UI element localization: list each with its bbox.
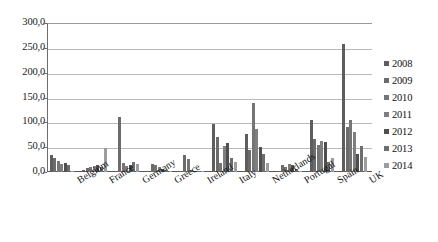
bar-group — [115, 23, 144, 172]
bar — [310, 120, 313, 172]
bar — [57, 161, 60, 172]
x-axis-category-label: Belgium — [75, 176, 81, 185]
x-axis-category-label: France — [107, 176, 113, 185]
bar — [346, 127, 349, 172]
legend-item[interactable]: 2013 — [384, 140, 438, 157]
legend-item[interactable]: 2009 — [384, 72, 438, 89]
y-axis-tick-label: 50,0 — [1, 140, 45, 151]
bar — [67, 165, 70, 172]
bar — [245, 134, 248, 172]
y-axis-tick-label: 200,0 — [1, 66, 45, 77]
bar-group — [245, 23, 274, 172]
bar — [262, 154, 265, 172]
legend-label: 2012 — [392, 126, 412, 137]
legend: 2008200920102011201220132014 — [384, 55, 438, 174]
x-axis-category-label: Ireland — [205, 176, 211, 185]
legend-swatch — [384, 163, 389, 168]
legend-swatch — [384, 129, 389, 134]
x-axis-category-label: Portugal — [302, 176, 308, 185]
legend-swatch — [384, 112, 389, 117]
bar-group — [277, 23, 306, 172]
x-axis-category-label: Netherlands — [270, 176, 276, 185]
legend-label: 2013 — [392, 143, 412, 154]
bar-group — [50, 23, 79, 172]
bar — [360, 146, 363, 172]
x-axis-category-label: UK — [367, 176, 373, 185]
x-axis-category-label: Spain — [335, 176, 341, 185]
bar-group — [82, 23, 111, 172]
bar-group — [342, 23, 371, 172]
y-axis-tick-label: 150,0 — [1, 91, 45, 102]
bar — [259, 147, 262, 172]
bar — [60, 164, 63, 172]
bar — [364, 157, 367, 172]
x-axis-category-label: Italy — [237, 176, 243, 185]
legend-label: 2011 — [392, 109, 412, 120]
y-axis-tick-label: 100,0 — [1, 115, 45, 126]
bar-group — [212, 23, 241, 172]
legend-swatch — [384, 78, 389, 83]
bar — [266, 163, 269, 172]
y-axis-tick-label: 0,0 — [1, 165, 45, 176]
legend-label: 2010 — [392, 92, 412, 103]
x-axis-category-label: Greece — [172, 176, 178, 185]
legend-label: 2014 — [392, 160, 412, 171]
bar — [255, 129, 258, 172]
legend-swatch — [384, 95, 389, 100]
legend-item[interactable]: 2012 — [384, 123, 438, 140]
legend-item[interactable]: 2011 — [384, 106, 438, 123]
bar — [252, 103, 255, 172]
x-axis-category-labels: BelgiumFranceGermanyGreeceIrelandItalyNe… — [47, 172, 372, 242]
legend-swatch — [384, 146, 389, 151]
bar — [53, 158, 56, 172]
legend-swatch — [384, 61, 389, 66]
y-axis: 300,0250,0200,0150,0100,050,00,0 — [0, 0, 45, 242]
bar — [50, 155, 53, 172]
legend-label: 2009 — [392, 75, 412, 86]
y-axis-tick-label: 250,0 — [1, 41, 45, 52]
legend-item[interactable]: 2010 — [384, 89, 438, 106]
bar-chart: 300,0250,0200,0150,0100,050,00,0 Belgium… — [0, 0, 438, 242]
legend-item[interactable]: 2014 — [384, 157, 438, 174]
legend-item[interactable]: 2008 — [384, 55, 438, 72]
bar — [212, 124, 215, 172]
bar-group — [180, 23, 209, 172]
x-axis-category-label: Germany — [140, 176, 146, 185]
bar — [64, 163, 67, 172]
y-axis-tick-label: 300,0 — [1, 16, 45, 27]
bar-group — [147, 23, 176, 172]
bars-layer — [47, 23, 372, 172]
bar — [118, 117, 121, 172]
bar — [136, 164, 139, 172]
legend-label: 2008 — [392, 58, 412, 69]
bar — [342, 44, 345, 172]
bar-group — [310, 23, 339, 172]
